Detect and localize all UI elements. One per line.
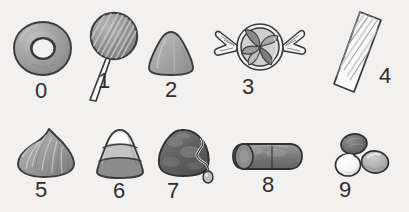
chocolate-kiss-icon <box>16 127 78 179</box>
candy-2-label: 2 <box>156 79 186 101</box>
candy-roll-bar-icon <box>232 140 304 174</box>
wrapped-swirl-candy-icon <box>214 18 306 78</box>
candy-7-label: 7 <box>158 180 188 202</box>
candy-4-label: 4 <box>370 65 400 87</box>
candy-6-label: 6 <box>104 180 134 202</box>
candy-5-label: 5 <box>26 179 56 201</box>
candy-discs-trio-icon <box>332 133 392 179</box>
candy-corn-icon <box>94 128 146 180</box>
candy-3-label: 3 <box>233 76 263 98</box>
candy-1-label: 1 <box>89 70 119 92</box>
candy-9-label: 9 <box>330 179 360 201</box>
candy-0-label: 0 <box>26 80 56 102</box>
ring-candy-icon <box>12 20 74 78</box>
chocolate-chunk-icon <box>157 128 219 184</box>
candy-8-label: 8 <box>253 174 283 196</box>
gumdrop-icon <box>146 30 196 78</box>
candy-illustration-canvas: 0 1 <box>0 0 409 212</box>
